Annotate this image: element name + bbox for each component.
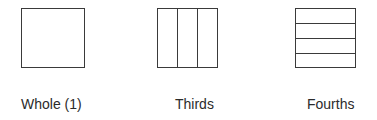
fourths-divider-3 [296, 53, 355, 55]
fourths-square [295, 8, 356, 68]
fourths-divider-2 [296, 38, 355, 40]
fourths-divider-1 [296, 23, 355, 25]
whole-label: Whole (1) [21, 96, 82, 112]
thirds-divider-2 [197, 9, 199, 67]
fourths-label: Fourths [307, 96, 354, 112]
thirds-label: Thirds [175, 96, 214, 112]
thirds-square [157, 8, 218, 68]
thirds-divider-1 [177, 9, 179, 67]
whole-square [21, 8, 85, 68]
